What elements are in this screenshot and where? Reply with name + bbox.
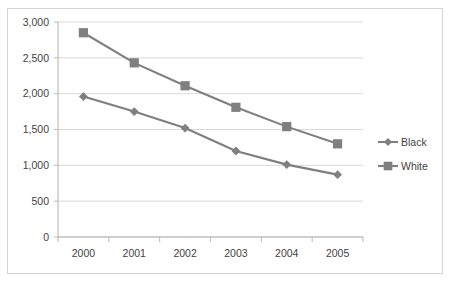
y-axis-tick-label: 500 xyxy=(31,195,49,207)
x-axis-tick-label: 2002 xyxy=(173,247,197,259)
legend-marker-black xyxy=(384,138,392,146)
legend-label-black: Black xyxy=(401,136,427,148)
data-point-black-2005 xyxy=(333,170,342,179)
series-line-black xyxy=(83,97,337,175)
data-point-white-2000 xyxy=(79,28,88,37)
data-point-black-2001 xyxy=(130,107,139,116)
legend-label-white: White xyxy=(401,160,428,172)
data-point-white-2004 xyxy=(282,122,291,131)
y-axis-tick-label: 2,500 xyxy=(23,52,49,64)
data-point-black-2003 xyxy=(232,147,241,156)
series-lines xyxy=(83,33,337,175)
data-point-white-2005 xyxy=(333,139,342,148)
x-axis-tick-label: 2001 xyxy=(123,247,147,259)
data-point-white-2003 xyxy=(231,103,240,112)
data-point-white-2001 xyxy=(130,58,139,67)
x-axis-tick-label: 2000 xyxy=(72,247,96,259)
y-axis-tick-label: 2,000 xyxy=(23,87,49,99)
chart-legend: BlackWhite xyxy=(378,136,428,172)
data-point-white-2002 xyxy=(180,81,189,90)
y-axis-tick-label: 1,000 xyxy=(23,159,49,171)
x-axis-tick-labels: 200020012002200320042005 xyxy=(72,247,350,259)
x-axis-tick-label: 2004 xyxy=(275,247,299,259)
series-line-white xyxy=(83,33,337,144)
legend-marker-white xyxy=(384,162,393,171)
y-axis-tick-label: 3,000 xyxy=(23,16,49,28)
data-point-black-2004 xyxy=(282,160,291,169)
x-axis-tick-label: 2005 xyxy=(326,247,350,259)
gridlines xyxy=(58,22,363,237)
x-axis-tick-label: 2003 xyxy=(224,247,248,259)
y-axis-tick-label: 0 xyxy=(43,231,49,243)
series-markers xyxy=(79,28,342,179)
axes xyxy=(54,22,363,242)
y-axis-tick-labels: 05001,0001,5002,0002,5003,000 xyxy=(23,16,49,243)
line-chart: 05001,0001,5002,0002,5003,000 2000200120… xyxy=(0,0,455,283)
y-axis-tick-label: 1,500 xyxy=(23,123,49,135)
data-point-black-2002 xyxy=(181,124,190,133)
